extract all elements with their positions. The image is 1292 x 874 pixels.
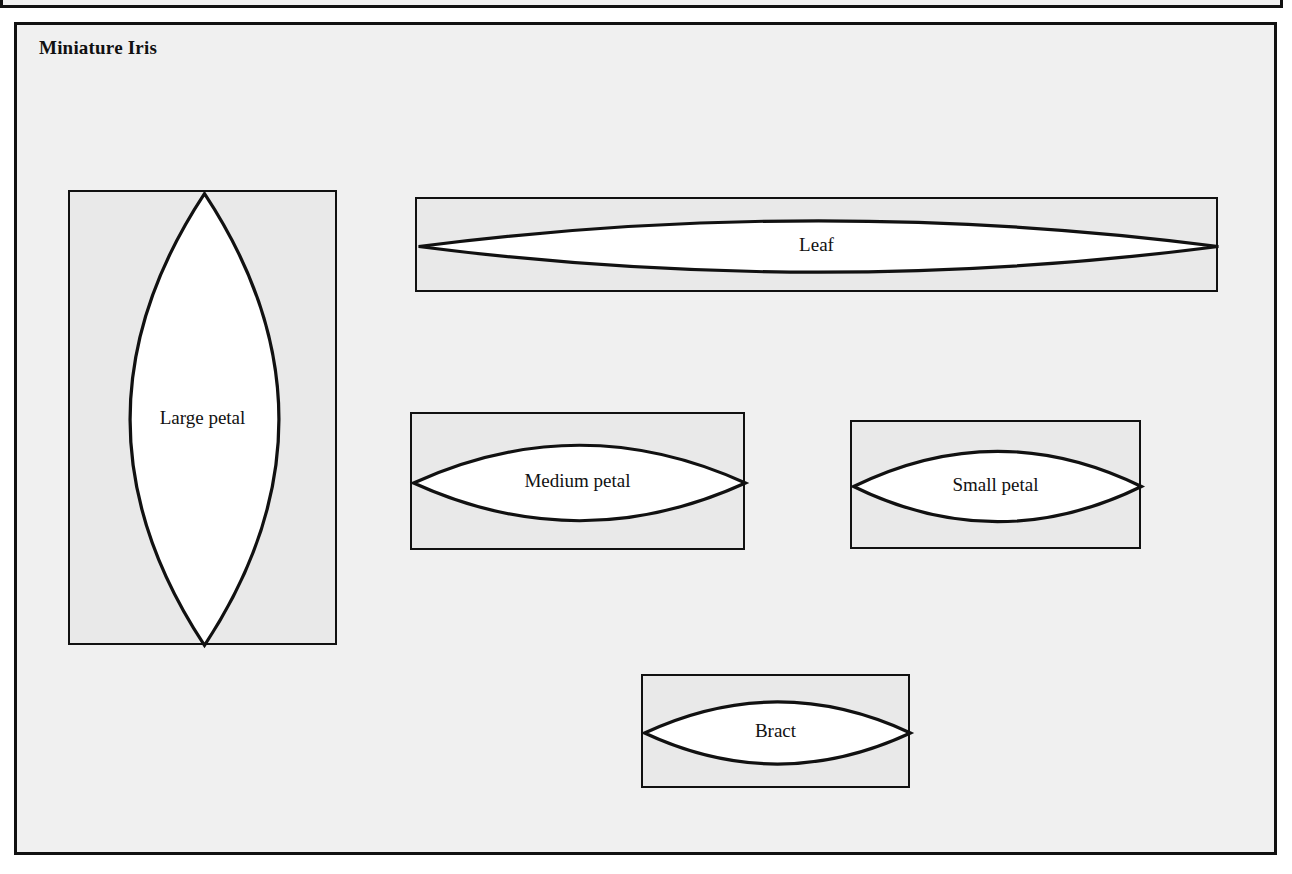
pattern-piece-large-petal: Large petal — [68, 190, 337, 645]
top-partial-frame — [0, 0, 1283, 8]
lens-outline-large-petal — [130, 194, 279, 646]
lens-shape-leaf — [415, 197, 1222, 296]
pattern-piece-bract: Bract — [641, 674, 910, 788]
lens-shape-large-petal — [68, 190, 341, 649]
lens-shape-small-petal — [850, 420, 1145, 553]
lens-outline-medium-petal — [414, 445, 746, 520]
pattern-piece-small-petal: Small petal — [850, 420, 1141, 549]
lens-shape-medium-petal — [410, 412, 749, 554]
lens-outline-leaf — [419, 221, 1219, 272]
lens-outline-bract — [645, 702, 911, 764]
page-title: Miniature Iris — [39, 37, 157, 59]
pattern-piece-medium-petal: Medium petal — [410, 412, 745, 550]
lens-outline-small-petal — [854, 451, 1142, 521]
lens-shape-bract — [641, 674, 914, 792]
pattern-sheet-page: Miniature Iris Large petalLeafMedium pet… — [0, 0, 1292, 874]
pattern-piece-leaf: Leaf — [415, 197, 1218, 292]
